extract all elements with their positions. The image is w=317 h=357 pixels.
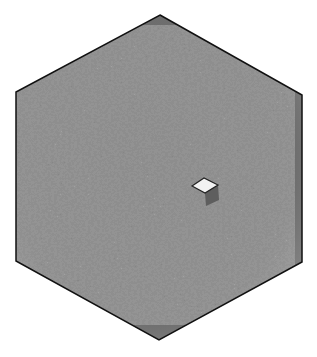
hexagon-interior — [0, 0, 317, 357]
hexagon-figure — [0, 0, 317, 357]
